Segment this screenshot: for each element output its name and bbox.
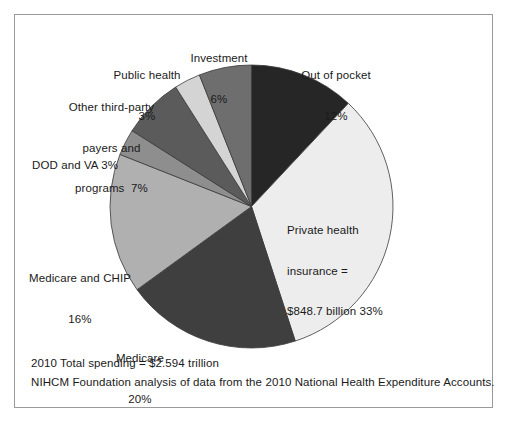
source-note: NIHCM Foundation analysis of data from t… xyxy=(31,375,495,389)
pie-label-dod-and-va-text: DOD and VA 3% xyxy=(32,159,172,173)
pie-label-other-third-party-line1: Other third-party xyxy=(49,101,174,115)
pie-label-out-of-pocket-name: Out of pocket xyxy=(278,69,394,83)
pie-label-private-health-insurance-line1: Private health xyxy=(287,224,417,238)
pie-label-medicare-value: 20% xyxy=(90,393,190,407)
pie-label-medicare-and-chip-value: 16% xyxy=(20,313,140,327)
pie-label-out-of-pocket: Out of pocket 12% xyxy=(278,42,394,150)
total-spending-note: 2010 Total spending = $2.594 trillion xyxy=(31,356,219,370)
chart-area: Investment 6% Public health 3% Other thi… xyxy=(0,0,506,425)
pie-chart-figure: Investment 6% Public health 3% Other thi… xyxy=(0,0,506,425)
pie-label-private-health-insurance-line3: $848.7 billion 33% xyxy=(287,305,417,319)
pie-label-dod-and-va: DOD and VA 3% xyxy=(32,132,172,200)
pie-label-medicare-and-chip-name: Medicare and CHIP xyxy=(20,272,140,286)
pie-label-private-health-insurance: Private health insurance = $848.7 billio… xyxy=(287,197,417,346)
pie-label-out-of-pocket-value: 12% xyxy=(278,110,394,124)
pie-label-private-health-insurance-line2: insurance = xyxy=(287,265,417,279)
